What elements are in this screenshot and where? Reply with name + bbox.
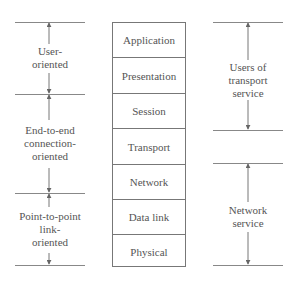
right-group-network-service: Network service: [208, 204, 288, 230]
layer-application: Application: [113, 23, 185, 58]
layer-transport: Transport: [113, 129, 185, 165]
left-boundary-line: [15, 22, 85, 23]
layer-presentation: Presentation: [113, 58, 185, 94]
left-group-point-to-point: Point-to-point link- oriented: [5, 210, 95, 249]
layer-label: Physical: [130, 246, 167, 258]
right-boundary-line: [213, 163, 283, 164]
left-boundary-line: [15, 94, 85, 95]
layer-label: Network: [130, 176, 169, 188]
left-group-end-to-end: End-to-end connection- oriented: [5, 124, 95, 163]
layer-label: Transport: [128, 141, 170, 153]
layer-network: Network: [113, 165, 185, 200]
left-boundary-line: [15, 193, 85, 194]
layer-label: Application: [123, 34, 175, 46]
layer-physical: Physical: [113, 235, 185, 268]
layer-session: Session: [113, 94, 185, 129]
right-group-users-of-transport: Users of transport service: [208, 61, 288, 100]
left-boundary-line: [15, 265, 85, 266]
layer-label: Presentation: [122, 70, 176, 82]
layer-label: Data link: [129, 211, 170, 223]
left-group-user-oriented: User- oriented: [10, 45, 90, 71]
right-boundary-line: [213, 265, 283, 266]
osi-layer-stack: Application Presentation Session Transpo…: [112, 22, 186, 267]
layer-data-link: Data link: [113, 200, 185, 235]
layer-label: Session: [132, 105, 166, 117]
right-boundary-line: [213, 22, 283, 23]
right-boundary-line: [213, 130, 283, 131]
